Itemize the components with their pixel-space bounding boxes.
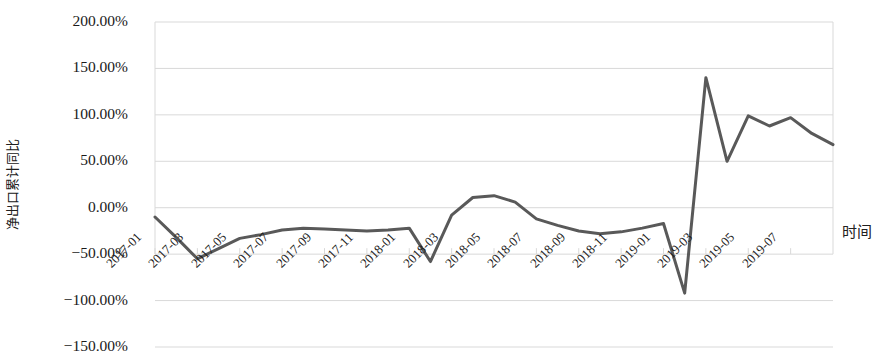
gridlines [155,22,833,347]
plot-area [0,0,879,353]
y-tick-label: −100.00% [28,291,128,309]
x-axis-title: 时间 [842,220,872,241]
y-tick-label: −150.00% [28,337,128,353]
y-tick-label: 100.00% [28,105,128,123]
y-tick-label: 150.00% [28,58,128,76]
y-tick-label: 200.00% [28,12,128,30]
y-axis-title: 净出口累计同比 [2,130,21,240]
y-tick-label: 0.00% [28,198,128,216]
y-tick-label: 50.00% [28,151,128,169]
net-export-yoy-line-chart: 净出口累计同比 200.00%150.00%100.00%50.00%0.00%… [0,0,879,353]
